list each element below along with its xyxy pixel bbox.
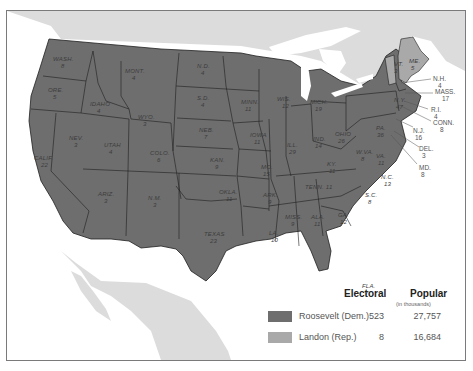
svg-text:ARIZ.: ARIZ. bbox=[97, 191, 114, 197]
svg-text:MD.: MD. bbox=[419, 164, 431, 171]
svg-text:IDAHO: IDAHO bbox=[90, 101, 110, 107]
svg-text:6: 6 bbox=[157, 157, 161, 163]
svg-text:4: 4 bbox=[132, 75, 136, 81]
svg-text:4: 4 bbox=[97, 108, 101, 114]
svg-text:IOWA: IOWA bbox=[250, 132, 267, 138]
svg-text:15: 15 bbox=[263, 171, 271, 177]
svg-text:WASH.: WASH. bbox=[53, 56, 74, 62]
svg-text:11: 11 bbox=[226, 196, 233, 202]
svg-text:LA.: LA. bbox=[269, 230, 279, 236]
svg-text:MASS.: MASS. bbox=[435, 88, 455, 95]
svg-text:11: 11 bbox=[314, 221, 321, 227]
svg-text:OHIO: OHIO bbox=[335, 131, 351, 137]
svg-text:14: 14 bbox=[315, 143, 323, 149]
svg-text:MONT.: MONT. bbox=[125, 68, 145, 74]
svg-text:ALA.: ALA. bbox=[310, 214, 325, 220]
svg-text:9: 9 bbox=[268, 199, 272, 205]
svg-text:9: 9 bbox=[291, 221, 295, 227]
svg-text:N.Y.: N.Y. bbox=[394, 97, 406, 103]
svg-text:8: 8 bbox=[361, 156, 365, 162]
svg-text:UTAH: UTAH bbox=[104, 142, 121, 148]
legend-row-landon: Landon (Rep.) 8 16,684 bbox=[268, 332, 468, 344]
svg-text:8: 8 bbox=[61, 63, 65, 69]
svg-text:26: 26 bbox=[337, 138, 346, 144]
svg-text:11: 11 bbox=[254, 139, 261, 145]
svg-text:4: 4 bbox=[201, 70, 205, 76]
roosevelt-swatch bbox=[268, 311, 292, 322]
svg-text:KY.: KY. bbox=[327, 161, 337, 167]
svg-text:5: 5 bbox=[53, 94, 57, 100]
legend-electoral-votes: 8 bbox=[368, 332, 384, 342]
svg-text:VT.: VT. bbox=[394, 61, 403, 67]
svg-text:N.M.: N.M. bbox=[148, 195, 161, 201]
svg-text:N.J.: N.J. bbox=[413, 127, 425, 134]
svg-text:MICH.: MICH. bbox=[310, 99, 328, 105]
svg-text:10: 10 bbox=[271, 237, 279, 243]
svg-text:R.I.: R.I. bbox=[431, 106, 441, 113]
svg-text:TEXAS: TEXAS bbox=[204, 231, 225, 237]
svg-text:S.D.: S.D. bbox=[197, 95, 209, 101]
svg-text:29: 29 bbox=[288, 149, 297, 155]
svg-text:11: 11 bbox=[378, 160, 385, 166]
svg-text:4: 4 bbox=[201, 102, 205, 108]
svg-text:3: 3 bbox=[143, 121, 147, 127]
legend-electoral-votes: 523 bbox=[368, 311, 384, 321]
svg-text:NEV.: NEV. bbox=[69, 135, 83, 141]
svg-text:VA.: VA. bbox=[376, 153, 386, 159]
svg-text:NEB.: NEB. bbox=[199, 127, 214, 133]
svg-text:N.D.: N.D. bbox=[197, 63, 210, 69]
svg-text:N.H.: N.H. bbox=[433, 75, 446, 82]
svg-text:3: 3 bbox=[104, 198, 108, 204]
svg-text:3: 3 bbox=[422, 152, 426, 159]
svg-text:TENN. 11: TENN. 11 bbox=[305, 184, 333, 190]
svg-text:KAN.: KAN. bbox=[210, 157, 225, 163]
svg-text:47: 47 bbox=[396, 104, 404, 110]
svg-text:19: 19 bbox=[315, 106, 323, 112]
svg-text:8: 8 bbox=[368, 199, 372, 205]
svg-text:N.C.: N.C. bbox=[381, 174, 394, 180]
legend: Electoral Popular (in thousands) Rooseve… bbox=[268, 288, 468, 358]
svg-text:4: 4 bbox=[109, 149, 113, 155]
svg-text:12: 12 bbox=[282, 103, 290, 109]
svg-text:ILL.: ILL. bbox=[287, 142, 298, 148]
landon-swatch bbox=[268, 332, 292, 343]
svg-text:12: 12 bbox=[340, 219, 348, 225]
svg-text:CALIF.: CALIF. bbox=[34, 155, 53, 161]
svg-text:PA.: PA. bbox=[376, 125, 386, 131]
svg-text:ARK.: ARK. bbox=[262, 192, 278, 198]
svg-text:13: 13 bbox=[384, 181, 392, 187]
svg-text:WIS.: WIS. bbox=[277, 96, 291, 102]
svg-text:16: 16 bbox=[415, 134, 423, 141]
svg-text:MISS.: MISS. bbox=[285, 214, 302, 220]
svg-text:3: 3 bbox=[153, 202, 157, 208]
legend-row-roosevelt: Roosevelt (Dem.) 523 27,757 bbox=[268, 311, 468, 323]
svg-text:17: 17 bbox=[442, 95, 450, 102]
svg-text:3: 3 bbox=[394, 68, 398, 74]
svg-text:MO.: MO. bbox=[261, 164, 273, 170]
legend-popular-header: Popular bbox=[410, 288, 447, 299]
svg-text:11: 11 bbox=[245, 106, 252, 112]
svg-text:23: 23 bbox=[209, 238, 218, 244]
svg-text:ORE.: ORE. bbox=[48, 87, 63, 93]
legend-candidate-name: Roosevelt (Dem.) bbox=[299, 311, 369, 321]
legend-popular-votes: 16,684 bbox=[403, 332, 441, 342]
legend-candidate-name: Landon (Rep.) bbox=[299, 332, 357, 342]
svg-text:3: 3 bbox=[74, 142, 78, 148]
svg-text:CONN.: CONN. bbox=[433, 119, 454, 126]
svg-text:COLO.: COLO. bbox=[150, 150, 170, 156]
svg-text:11: 11 bbox=[329, 168, 336, 174]
svg-text:W.VA.: W.VA. bbox=[356, 149, 373, 155]
svg-text:OKLA.: OKLA. bbox=[219, 189, 238, 195]
svg-text:8: 8 bbox=[421, 171, 425, 178]
svg-text:S.C.: S.C. bbox=[365, 192, 377, 198]
svg-text:8: 8 bbox=[440, 126, 444, 133]
legend-popular-votes: 27,757 bbox=[403, 311, 441, 321]
svg-text:WYO.: WYO. bbox=[138, 114, 155, 120]
svg-text:MINN.: MINN. bbox=[241, 99, 259, 105]
legend-popular-subheader: (in thousands) bbox=[396, 301, 431, 307]
svg-text:IND.: IND. bbox=[313, 136, 326, 142]
svg-text:GA.: GA. bbox=[338, 212, 349, 218]
svg-text:ME.: ME. bbox=[409, 58, 420, 64]
svg-text:36: 36 bbox=[377, 132, 385, 138]
callout-labels: N.H.4 MASS.17 R.I.4 CONN.8 N.J.16 DEL.3 … bbox=[413, 75, 455, 178]
